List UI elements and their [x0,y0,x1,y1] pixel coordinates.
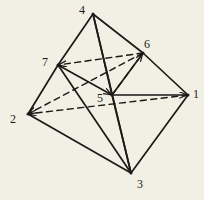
vertex-label-2: 2 [10,113,16,125]
vertex-point-3 [130,172,133,175]
vertex-label-3: 3 [137,178,143,190]
edge-5-3-solid [112,95,131,173]
edge-7-2-solid [28,65,58,114]
edge-4-7-solid [58,14,93,65]
vertex-label-5: 5 [97,92,103,104]
edge-1-2-dashed [29,95,188,114]
edge-2-3-solid [28,114,131,173]
figure-canvas: 1234567 [0,0,204,200]
vertex-point-5 [111,94,114,97]
vertex-point-1 [187,94,190,97]
vertex-point-7 [57,64,60,67]
edge-6-1-solid [143,53,188,95]
vertex-label-4: 4 [79,4,85,16]
vertex-point-6 [142,52,145,55]
solid-edge-group [28,14,188,173]
edge-7-5-solid [58,65,111,95]
vertex-point-2 [27,113,30,116]
edge-7-3-solid [58,65,131,173]
vertex-label-7: 7 [42,56,48,68]
vertex-point-4 [92,13,95,16]
edge-3-1-solid [131,95,188,173]
vertex-label-1: 1 [193,88,199,100]
vertex-label-6: 6 [144,38,150,50]
